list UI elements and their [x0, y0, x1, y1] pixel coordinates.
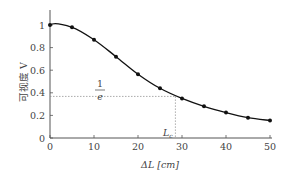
inv-e-denominator: e — [97, 91, 103, 102]
y-tick-label: 0.6 — [30, 65, 45, 76]
y-tick-label: 1 — [39, 20, 45, 31]
data-point — [92, 38, 96, 42]
y-axis-label: 可视度 V — [18, 62, 29, 102]
y-tick-label: 0 — [39, 133, 45, 144]
data-point — [246, 116, 250, 120]
x-tick-label: 10 — [88, 141, 100, 152]
data-point — [136, 72, 140, 76]
reference-lines — [50, 96, 175, 138]
x-tick-label: 0 — [47, 141, 53, 152]
data-series — [48, 23, 272, 122]
data-point — [114, 55, 118, 59]
y-tick-label: 0.2 — [30, 110, 45, 121]
axes — [50, 10, 272, 138]
coherence-length-label: Lc — [162, 127, 173, 139]
ticks: 0102030405000.20.40.60.81 — [30, 20, 276, 153]
x-axis-label: ΔL [cm] — [140, 159, 179, 170]
data-point — [268, 118, 272, 122]
data-point — [158, 86, 162, 90]
data-point — [70, 25, 74, 29]
data-point — [202, 104, 206, 108]
x-tick-label: 20 — [132, 141, 144, 152]
data-point — [180, 96, 184, 100]
data-point — [48, 23, 52, 27]
data-point — [224, 111, 228, 115]
x-tick-label: 50 — [264, 141, 276, 152]
visibility-chart: 0102030405000.20.40.60.81 ΔL [cm] 可视度 V … — [0, 0, 293, 176]
inv-e-numerator: 1 — [97, 78, 103, 89]
y-tick-label: 0.8 — [30, 42, 45, 53]
x-tick-label: 30 — [176, 141, 188, 152]
x-tick-label: 40 — [220, 141, 232, 152]
y-tick-label: 0.4 — [30, 87, 45, 98]
visibility-curve — [50, 24, 270, 121]
